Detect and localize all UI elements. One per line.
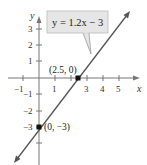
y-tick-label: 2 bbox=[28, 40, 33, 50]
x-intercept-label: (2.5, 0) bbox=[49, 65, 77, 76]
x-tick-label: 3 bbox=[84, 84, 89, 94]
y-intercept-label: (0, −3) bbox=[44, 122, 70, 133]
y-axis-label: y bbox=[29, 10, 35, 21]
equation-callout-pointer bbox=[83, 33, 91, 54]
point-y-intercept bbox=[37, 125, 42, 130]
x-tick-label: 5 bbox=[116, 84, 121, 94]
y-tick-label: −3 bbox=[23, 122, 33, 132]
x-axis-label: x bbox=[136, 83, 142, 94]
graph: −1 1 3 4 5 x 3 2 1 −1 −2 −3 y y = 1.2x −… bbox=[0, 0, 147, 165]
y-tick-label: −1 bbox=[23, 89, 33, 99]
function-line bbox=[17, 15, 127, 159]
equation-label: y = 1.2x − 3 bbox=[52, 17, 103, 28]
y-tick-label: −2 bbox=[23, 106, 33, 116]
y-tick-label: 3 bbox=[28, 24, 33, 34]
point-x-intercept bbox=[76, 76, 81, 81]
x-tick-label: 4 bbox=[100, 84, 105, 94]
y-axis-arrow-icon bbox=[37, 16, 42, 23]
y-tick-label: 1 bbox=[28, 56, 33, 66]
x-tick-label: 1 bbox=[52, 84, 57, 94]
x-axis-arrow-icon bbox=[133, 76, 140, 81]
